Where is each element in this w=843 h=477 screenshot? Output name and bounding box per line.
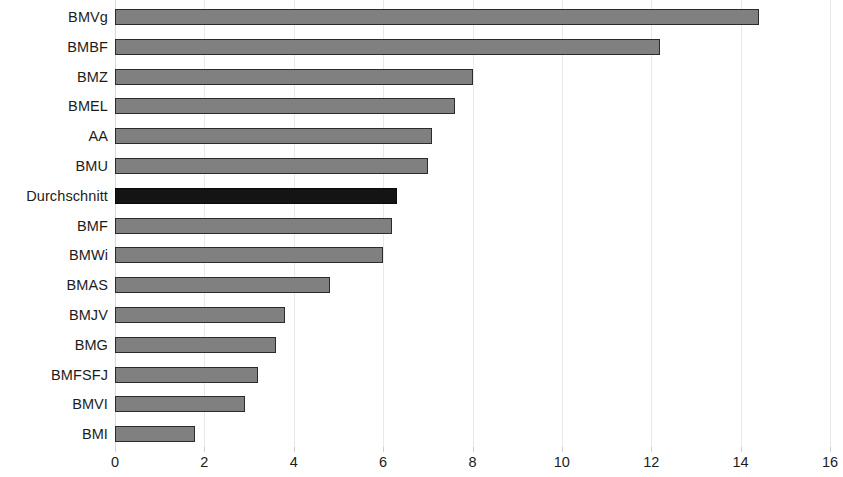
category-label: BMVg [0, 10, 108, 25]
bar [115, 9, 759, 25]
category-label: BMBF [0, 40, 108, 55]
bar [115, 39, 660, 55]
bar [115, 307, 285, 323]
bar [115, 367, 258, 383]
category-label: BMAS [0, 278, 108, 293]
category-label: BMZ [0, 70, 108, 85]
category-label: BMG [0, 338, 108, 353]
bar [115, 98, 455, 114]
category-label: AA [0, 129, 108, 144]
axis-tick-mark [651, 447, 652, 452]
bar [115, 69, 473, 85]
axis-tick-mark [473, 447, 474, 452]
axis-tick-label: 0 [111, 455, 119, 470]
category-axis: BMVgBMBFBMZBMELAABMUDurchschnittBMFBMWiB… [0, 0, 108, 447]
axis-tick-label: 16 [822, 455, 838, 470]
category-label: BMVI [0, 397, 108, 412]
axis-tick-label: 2 [200, 455, 208, 470]
bar [115, 277, 330, 293]
bar [115, 218, 392, 234]
axis-tick-label: 12 [643, 455, 659, 470]
bar-highlight [115, 188, 397, 204]
bar [115, 426, 195, 442]
bar [115, 396, 245, 412]
category-label: BMJV [0, 308, 108, 323]
axis-tick-mark [294, 447, 295, 452]
axis-tick-label: 10 [554, 455, 570, 470]
category-label: BMI [0, 427, 108, 442]
axis-tick-label: 4 [290, 455, 298, 470]
axis-tick-mark [383, 447, 384, 452]
bar [115, 128, 432, 144]
bar [115, 247, 383, 263]
category-label: BMU [0, 159, 108, 174]
category-label: BMF [0, 219, 108, 234]
category-label: BMFSFJ [0, 368, 108, 383]
bar [115, 337, 276, 353]
category-label: Durchschnitt [0, 189, 108, 204]
bar-chart: BMVgBMBFBMZBMELAABMUDurchschnittBMFBMWiB… [0, 0, 843, 477]
plot-area [115, 0, 830, 447]
axis-tick-label: 8 [468, 455, 476, 470]
category-label: BMWi [0, 248, 108, 263]
axis-tick-mark [830, 447, 831, 452]
axis-tick-mark [741, 447, 742, 452]
bar [115, 158, 428, 174]
value-axis: 0246810121416 [115, 447, 830, 477]
bars-layer [115, 0, 830, 447]
axis-tick-mark [115, 447, 116, 452]
axis-tick-label: 6 [379, 455, 387, 470]
axis-tick-mark [204, 447, 205, 452]
gridline [830, 0, 831, 447]
axis-tick-mark [562, 447, 563, 452]
category-label: BMEL [0, 99, 108, 114]
axis-tick-label: 14 [733, 455, 749, 470]
